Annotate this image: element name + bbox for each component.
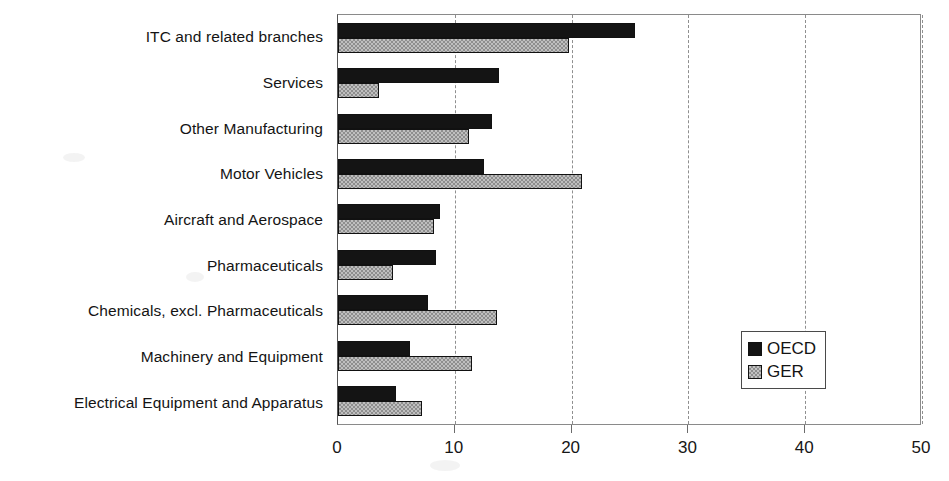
x-tick-label-10: 10	[414, 438, 494, 458]
x-axis	[337, 425, 921, 435]
legend-item-oecd: OECD	[748, 337, 816, 360]
x-tick-30	[687, 425, 688, 433]
bar-oecd	[338, 250, 436, 265]
bar-ger	[338, 401, 422, 416]
legend-swatch-oecd-icon	[748, 342, 762, 356]
bar-oecd	[338, 204, 440, 219]
bar-oecd	[338, 159, 484, 174]
category-axis: ITC and related branches Services Other …	[0, 14, 330, 425]
bar-oecd	[338, 23, 635, 38]
category-label-chemicals: Chemicals, excl. Pharmaceuticals	[0, 288, 330, 334]
bar-group	[338, 15, 920, 60]
legend-swatch-ger-icon	[748, 365, 762, 379]
bar-group	[338, 197, 920, 242]
bar-ger	[338, 265, 393, 280]
bar-group	[338, 288, 920, 333]
bar-group	[338, 333, 920, 378]
bar-ger	[338, 83, 379, 98]
category-label-electrical-equipment: Electrical Equipment and Apparatus	[0, 379, 330, 425]
x-tick-label-20: 20	[531, 438, 611, 458]
bar-group	[338, 60, 920, 105]
category-label-machinery-equipment: Machinery and Equipment	[0, 334, 330, 380]
x-tick-label-50: 50	[881, 438, 949, 458]
bar-group	[338, 106, 920, 151]
x-tick-40	[804, 425, 805, 433]
legend-label-ger: GER	[767, 363, 804, 380]
category-label-pharmaceuticals: Pharmaceuticals	[0, 242, 330, 288]
legend-label-oecd: OECD	[767, 340, 816, 357]
category-label-other-manufacturing: Other Manufacturing	[0, 105, 330, 151]
x-axis-tick-labels: 01020304050	[297, 438, 949, 468]
bar-ger	[338, 38, 569, 53]
bar-oecd	[338, 295, 428, 310]
x-tick-label-0: 0	[297, 438, 377, 458]
bar-ger	[338, 356, 472, 371]
bar-ger	[338, 174, 582, 189]
bars-layer	[338, 15, 920, 424]
bar-ger	[338, 129, 469, 144]
category-label-motor-vehicles: Motor Vehicles	[0, 151, 330, 197]
bar-ger	[338, 219, 434, 234]
bar-ger	[338, 310, 497, 325]
category-label-aircraft-aerospace: Aircraft and Aerospace	[0, 197, 330, 243]
x-tick-20	[571, 425, 572, 433]
bar-chart: ITC and related branches Services Other …	[0, 0, 949, 481]
bar-group	[338, 151, 920, 196]
x-tick-label-40: 40	[764, 438, 844, 458]
plot-area	[337, 14, 921, 425]
bar-oecd	[338, 114, 492, 129]
category-label-itc: ITC and related branches	[0, 14, 330, 60]
bar-oecd	[338, 341, 410, 356]
category-label-services: Services	[0, 60, 330, 106]
legend-item-ger: GER	[748, 360, 816, 383]
legend: OECD GER	[741, 331, 826, 389]
bar-oecd	[338, 68, 499, 83]
x-tick-label-30: 30	[647, 438, 727, 458]
x-tick-10	[454, 425, 455, 433]
gridline-50	[922, 15, 923, 424]
bar-group	[338, 379, 920, 424]
bar-group	[338, 242, 920, 287]
bar-oecd	[338, 386, 396, 401]
